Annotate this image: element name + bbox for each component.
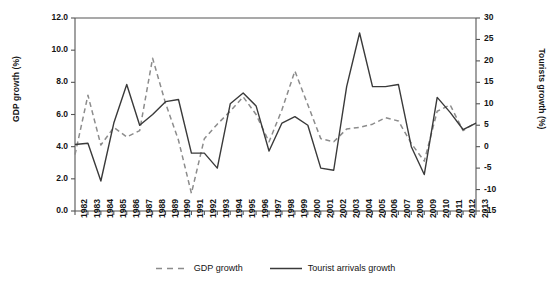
x-axis-tick-label: 1982	[79, 199, 89, 218]
x-axis-tick-label: 1989	[170, 199, 180, 218]
x-axis-tick-label: 2010	[441, 199, 451, 218]
legend-swatch	[155, 264, 189, 273]
x-axis-tick-label: 1999	[299, 199, 309, 218]
x-axis-tick-label: 1987	[144, 199, 154, 218]
x-axis-tick-label: 1990	[182, 199, 192, 218]
y-axis-right-tick-label: 5	[484, 120, 489, 129]
x-axis-tick-label: 1997	[273, 199, 283, 218]
y-axis-left-tick-label: 4.0	[20, 142, 68, 151]
x-axis-tick-label: 1992	[208, 199, 218, 218]
x-axis-tick-label: 2009	[428, 199, 438, 218]
x-axis-tick-label: 1985	[118, 199, 128, 218]
y-axis-left-tick-label: 2.0	[20, 174, 68, 183]
x-axis-tick-label: 1986	[131, 199, 141, 218]
x-axis-tick-label: 2005	[377, 199, 387, 218]
data-series-layer	[75, 33, 476, 193]
legend-swatch	[269, 264, 303, 273]
x-axis-tick-label: 2001	[325, 199, 335, 218]
y-axis-left-ticks	[71, 18, 75, 211]
x-axis-tick-label: 2000	[312, 199, 322, 218]
x-axis-tick-label: 2011	[454, 200, 464, 218]
legend-label: GDP growth	[194, 263, 243, 273]
x-axis-tick-label: 2002	[338, 199, 348, 218]
chart-figure: GDP growth (%) Tourists growth (%) 0.02.…	[0, 0, 550, 282]
series-line	[75, 58, 476, 193]
y-axis-right-tick-label: 0	[484, 142, 489, 151]
x-axis-tick-label: 1996	[260, 199, 270, 218]
y-axis-right-tick-label: 20	[484, 56, 493, 65]
x-axis-tick-label: 1983	[92, 199, 102, 218]
x-axis-tick-label: 1984	[105, 199, 115, 218]
y-axis-right-tick-label: 10	[484, 99, 493, 108]
x-axis-tick-label: 2012	[467, 199, 477, 218]
axis-lines	[75, 18, 476, 211]
x-axis-tick-label: 2003	[351, 199, 361, 218]
series-line	[75, 33, 476, 181]
legend-item: Tourist arrivals growth	[269, 263, 396, 273]
y-axis-right-tick-label: 15	[484, 77, 493, 86]
y-axis-left-tick-label: 12.0	[20, 13, 68, 22]
legend-label: Tourist arrivals growth	[308, 263, 396, 273]
y-axis-right-tick-label: 30	[484, 13, 493, 22]
x-axis-tick-label: 1991	[195, 199, 205, 218]
y-axis-left-tick-label: 0.0	[20, 206, 68, 215]
y-axis-right-title: Tourists growth (%)	[537, 34, 547, 144]
y-axis-left-tick-label: 6.0	[20, 110, 68, 119]
y-axis-right-tick-label: -5	[484, 163, 492, 172]
legend-item: GDP growth	[155, 263, 243, 273]
x-axis-tick-label: 1998	[286, 199, 296, 218]
x-axis-tick-label: 2008	[415, 199, 425, 218]
y-axis-left-tick-label: 10.0	[20, 45, 68, 54]
x-axis-tick-label: 2004	[364, 199, 374, 218]
y-axis-right-tick-label: 25	[484, 34, 493, 43]
x-axis-tick-label: 1995	[247, 199, 257, 218]
y-axis-right-ticks	[476, 18, 480, 211]
x-axis-tick-label: 2013	[480, 199, 490, 218]
x-axis-tick-label: 1993	[221, 199, 231, 218]
chart-legend: GDP growthTourist arrivals growth	[0, 258, 550, 278]
x-axis-tick-label: 2007	[402, 199, 412, 218]
y-axis-right-tick-label: -10	[484, 185, 496, 194]
y-axis-left-tick-label: 8.0	[20, 77, 68, 86]
x-axis-tick-label: 1988	[157, 199, 167, 218]
x-axis-tick-label: 1994	[234, 199, 244, 218]
plot-canvas	[0, 0, 550, 282]
x-axis-tick-label: 2006	[389, 199, 399, 218]
